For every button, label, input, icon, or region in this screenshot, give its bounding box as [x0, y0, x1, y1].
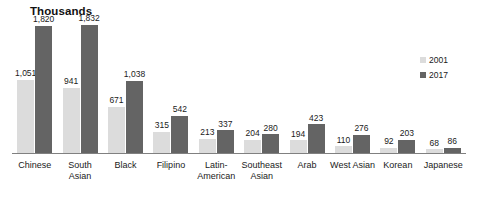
bar-group: 1,0511,820: [12, 20, 57, 154]
bar-2001[interactable]: 315: [153, 20, 170, 154]
plot-area: 1,0511,8209411,8326711,03831554221333720…: [12, 20, 466, 154]
bar-group: 204280: [239, 20, 284, 154]
bar-2017[interactable]: 337: [217, 20, 234, 154]
bar-value-label: 92: [384, 137, 393, 146]
bar-2017[interactable]: 276: [353, 20, 370, 154]
bar-rect[interactable]: [35, 26, 52, 154]
bar-group-bars: 6711,038: [103, 20, 148, 154]
bar-value-label: 423: [309, 114, 323, 123]
bar-2017[interactable]: 203: [398, 20, 415, 154]
bar-group: 92203: [375, 20, 420, 154]
bar-rect[interactable]: [353, 135, 370, 154]
bar-value-label: 337: [218, 120, 232, 129]
x-axis-category-label: Japanese: [417, 160, 470, 171]
bar-value-label: 110: [337, 136, 351, 145]
bar-group: 110276: [330, 20, 375, 154]
bar-rect[interactable]: [308, 124, 325, 154]
bar-value-label: 213: [200, 128, 214, 137]
bar-group: 194423: [284, 20, 329, 154]
bar-value-label: 1,051: [15, 69, 36, 78]
bar-group: 6711,038: [103, 20, 148, 154]
bar-chart: Thousands 20012017 1,0511,8209411,832671…: [0, 0, 477, 197]
bar-group-bars: 213337: [194, 20, 239, 154]
bar-2017[interactable]: 280: [262, 20, 279, 154]
bar-value-label: 1,038: [124, 70, 145, 79]
bar-2001[interactable]: 194: [290, 20, 307, 154]
bar-group-bars: 6886: [421, 20, 466, 154]
bar-value-label: 315: [155, 121, 169, 130]
bar-rect[interactable]: [63, 88, 80, 154]
bar-group-bars: 204280: [239, 20, 284, 154]
bar-value-label: 68: [430, 139, 439, 148]
bar-value-label: 203: [400, 129, 414, 138]
bar-group-bars: 194423: [284, 20, 329, 154]
bar-rect[interactable]: [262, 134, 279, 154]
bar-value-label: 194: [291, 130, 305, 139]
bar-value-label: 280: [264, 124, 278, 133]
bar-2001[interactable]: 671: [108, 20, 125, 154]
bar-rect[interactable]: [290, 140, 307, 154]
bar-rect[interactable]: [244, 140, 261, 154]
bar-2001[interactable]: 1,051: [17, 20, 34, 154]
bar-value-label: 1,820: [33, 15, 54, 24]
bar-group-bars: 92203: [375, 20, 420, 154]
bar-2017[interactable]: 1,038: [126, 20, 143, 154]
bar-group: 315542: [148, 20, 193, 154]
bar-2017[interactable]: 423: [308, 20, 325, 154]
bar-rect[interactable]: [81, 25, 98, 154]
bar-2001[interactable]: 941: [63, 20, 80, 154]
bar-rect[interactable]: [217, 130, 234, 154]
bar-2017[interactable]: 1,832: [81, 20, 98, 154]
bar-value-label: 86: [448, 137, 457, 146]
bar-2017[interactable]: 542: [171, 20, 188, 154]
bar-rect[interactable]: [17, 80, 34, 154]
bar-2001[interactable]: 213: [199, 20, 216, 154]
bar-rect[interactable]: [153, 132, 170, 154]
bar-value-label: 941: [64, 77, 78, 86]
x-axis-line: [12, 153, 466, 154]
bar-rect[interactable]: [199, 139, 216, 154]
x-axis-category-label-line: Asian: [235, 171, 288, 182]
bar-2017[interactable]: 86: [444, 20, 461, 154]
bar-value-label: 1,832: [78, 14, 99, 23]
x-axis-category-label-line: Asian: [53, 171, 106, 182]
bar-2001[interactable]: 110: [335, 20, 352, 154]
bar-2017[interactable]: 1,820: [35, 20, 52, 154]
bar-2001[interactable]: 68: [426, 20, 443, 154]
bar-group: 213337: [194, 20, 239, 154]
x-axis-category-label-line: Japanese: [417, 160, 470, 171]
bar-value-label: 276: [354, 124, 368, 133]
bar-group: 6886: [421, 20, 466, 154]
bar-2001[interactable]: 92: [380, 20, 397, 154]
bar-rect[interactable]: [171, 116, 188, 154]
bar-rect[interactable]: [108, 107, 125, 154]
bar-group-bars: 315542: [148, 20, 193, 154]
bar-value-label: 204: [246, 129, 260, 138]
bar-2001[interactable]: 204: [244, 20, 261, 154]
bar-value-label: 542: [173, 105, 187, 114]
bar-group-bars: 1,0511,820: [12, 20, 57, 154]
bar-rect[interactable]: [126, 81, 143, 154]
bar-rect[interactable]: [398, 140, 415, 154]
bar-value-label: 671: [109, 96, 123, 105]
bar-group-bars: 110276: [330, 20, 375, 154]
bar-group: 9411,832: [57, 20, 102, 154]
bar-group-bars: 9411,832: [57, 20, 102, 154]
